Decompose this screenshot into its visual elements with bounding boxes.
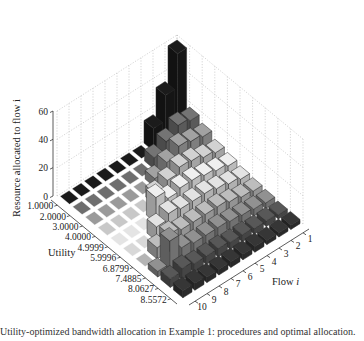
floor-cell: [110, 232, 129, 246]
z-tick-label: 20: [39, 163, 49, 173]
flow-tick-label: 10: [197, 302, 207, 312]
utility-tick-label: 6.8799: [103, 264, 129, 274]
utility-tick: [117, 257, 120, 258]
floor-cell: [121, 171, 140, 185]
utility-tick-label: 7.4885: [115, 274, 141, 284]
flow-tick: [243, 271, 246, 273]
floor-cell: [120, 153, 139, 167]
floor-cell: [123, 243, 142, 257]
flow-tick-label: 4: [272, 257, 277, 267]
utility-axis-title: Utility: [48, 247, 76, 258]
floor-cell: [98, 222, 117, 236]
flow-tick: [207, 294, 210, 296]
floor-cell: [96, 168, 115, 182]
floor-cell: [85, 193, 104, 207]
flow-tick: [219, 286, 222, 288]
flow-tick-label: 8: [224, 287, 229, 297]
floor-cell: [122, 207, 141, 221]
floor-cell: [97, 204, 116, 218]
flow-tick: [255, 263, 258, 265]
floor-cell: [97, 186, 116, 200]
z-tick: [50, 111, 53, 113]
z-tick: [50, 139, 53, 141]
floor-cell: [109, 178, 128, 192]
utility-tick-label: 2.0000: [40, 212, 66, 222]
z-tick: [50, 168, 53, 170]
utility-tick-label: 3.0000: [52, 222, 78, 232]
z-axis-title: Resource allocated to flow i: [11, 99, 22, 217]
flow-tick: [231, 278, 234, 280]
z-tick-label: 0: [43, 192, 48, 202]
floor-cell: [109, 196, 128, 210]
utility-tick: [143, 278, 146, 279]
flow-tick-label: 1: [308, 234, 313, 244]
flow-tick: [303, 233, 306, 235]
utility-tick: [168, 299, 171, 300]
utility-tick: [105, 247, 108, 248]
flow-tick-label: 3: [284, 249, 289, 259]
utility-tick: [155, 288, 158, 289]
figure-caption: Utility-optimized bandwidth allocation i…: [0, 326, 364, 337]
flow-tick-label: 2: [296, 241, 301, 251]
utility-tick-label: 1.0000: [27, 201, 53, 211]
flow-tick: [267, 256, 270, 258]
utility-tick-label: 8.0627: [128, 284, 154, 294]
floor-cell: [72, 183, 91, 197]
flow-tick-label: 7: [236, 279, 241, 289]
z-tick-label: 60: [39, 107, 49, 117]
z-tick: [50, 196, 53, 198]
utility-tick: [92, 236, 95, 237]
floor-cell: [110, 214, 129, 228]
floor-cell: [108, 160, 127, 174]
bars: [144, 40, 300, 298]
flow-tick: [279, 248, 282, 250]
z-tick-label: 40: [39, 135, 49, 145]
floor-cell: [121, 189, 140, 203]
floor-cell: [85, 211, 104, 225]
flow-tick-label: 9: [212, 295, 217, 305]
flow-axis-title: Flow i: [272, 276, 299, 287]
utility-tick-label: 4.0000: [65, 232, 91, 242]
utility-tick: [67, 216, 70, 217]
utility-tick-label: 8.5572: [141, 295, 167, 305]
floor-cell: [122, 225, 141, 239]
floor-cell: [73, 201, 92, 215]
utility-tick-label: 4.9999: [78, 243, 104, 253]
utility-tick-label: 5.9996: [90, 253, 116, 263]
utility-tick: [80, 226, 83, 227]
bar3d-chart: 0204060Resource allocated to flow i1.000…: [0, 0, 364, 341]
flow-tick-label: 6: [248, 272, 253, 282]
utility-tick: [54, 205, 57, 206]
utility-tick: [130, 268, 133, 269]
floor-cell: [84, 175, 103, 189]
flow-tick-label: 5: [260, 264, 265, 274]
flow-tick: [291, 240, 294, 242]
